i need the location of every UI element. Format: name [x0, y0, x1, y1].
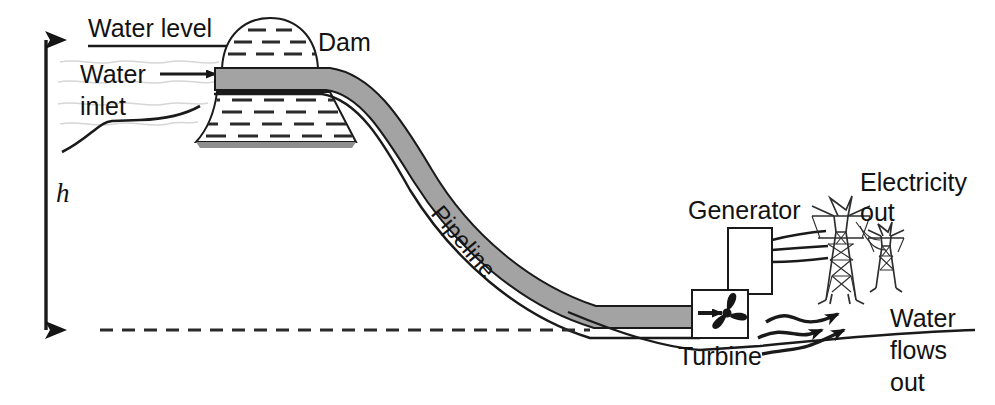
dam-base-strip: [196, 142, 356, 148]
generator-box: [728, 228, 772, 294]
turbine-label: Turbine: [678, 342, 762, 370]
water-flows-out-label-line3: out: [890, 368, 925, 396]
water-level-label: Water level: [88, 14, 212, 42]
water-inlet-label-line2: inlet: [80, 92, 126, 120]
diagram-canvas: h Water level Water inlet: [0, 0, 995, 405]
dam-label: Dam: [318, 28, 371, 56]
pylon-small-icon: [868, 222, 904, 292]
hydroelectric-diagram: h Water level Water inlet: [0, 0, 995, 405]
generator-label: Generator: [688, 196, 801, 224]
water-flows-out-label-line2: flows: [890, 336, 947, 364]
electricity-out-label-line2: out: [860, 198, 895, 226]
outflow-arrows: [758, 314, 844, 354]
electricity-out-label-line1: Electricity: [860, 168, 967, 196]
height-label: h: [56, 178, 70, 208]
outflow-arrow-1: [766, 314, 838, 322]
water-flows-out-label-line1: Water: [890, 304, 956, 332]
water-inlet-label-line1: Water: [80, 60, 146, 88]
outflow-arrow-2: [758, 330, 822, 338]
